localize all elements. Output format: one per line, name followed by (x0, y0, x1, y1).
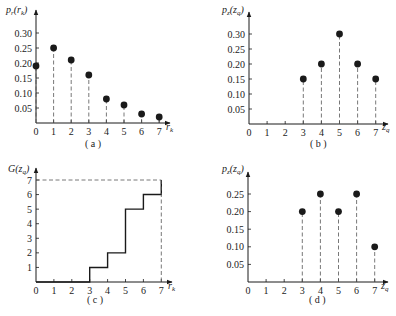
x-tick-label: 4 (105, 285, 110, 296)
data-point (353, 191, 360, 198)
data-point (85, 72, 92, 79)
chart-a-ylabel: pr(rk) (5, 4, 28, 17)
x-tick-label: 7 (373, 127, 378, 138)
data-point (138, 111, 145, 118)
step-line (36, 180, 161, 282)
x-tick-label: 4 (318, 285, 323, 296)
x-tick-label: 3 (301, 127, 306, 138)
data-point (68, 57, 75, 64)
y-tick-label: 0.15 (227, 224, 245, 235)
chart-b-caption: ( b ) (310, 138, 327, 150)
y-tick-label: 4 (27, 218, 32, 229)
data-point (299, 208, 306, 215)
x-tick-label: 4 (319, 127, 324, 138)
chart-c: G(zq) rk ( c ) 012345671234567 (8, 163, 176, 306)
x-tick-label: 2 (69, 285, 74, 296)
y-tick-label: 0.20 (227, 206, 245, 217)
x-tick-label: 1 (51, 126, 56, 137)
data-point (33, 63, 40, 70)
x-tick-label: 5 (336, 285, 341, 296)
y-tick-label: 0.05 (227, 259, 245, 270)
y-tick-label: 0.15 (228, 74, 246, 85)
data-point (354, 61, 361, 68)
data-point (318, 61, 325, 68)
x-tick-label: 0 (247, 127, 252, 138)
y-tick-label: 0.30 (15, 28, 33, 39)
y-tick-label: 0.25 (228, 44, 246, 55)
x-tick-label: 3 (87, 285, 92, 296)
x-tick-label: 1 (51, 285, 56, 296)
y-tick-label: 0.05 (15, 103, 33, 114)
x-tick-label: 2 (282, 285, 287, 296)
x-tick-label: 0 (34, 126, 39, 137)
y-tick-label: 3 (27, 233, 32, 244)
y-tick-label: 0.05 (228, 104, 246, 115)
x-tick-label: 5 (122, 126, 127, 137)
data-point (156, 114, 163, 121)
chart-b-ylabel: pz(zq) (221, 4, 244, 17)
x-tick-label: 0 (34, 285, 39, 296)
x-tick-label: 3 (86, 126, 91, 137)
x-tick-label: 5 (337, 127, 342, 138)
x-tick-label: 5 (123, 285, 128, 296)
data-point (121, 102, 128, 109)
x-tick-label: 6 (354, 285, 359, 296)
y-tick-label: 0.10 (228, 89, 246, 100)
y-tick-label: 7 (27, 175, 32, 186)
figure-canvas: pr(rk) rk ( a ) 012345670.050.100.150.20… (0, 0, 396, 316)
y-tick-label: 0.20 (15, 58, 33, 69)
data-point (371, 243, 378, 250)
y-tick-label: 0.20 (228, 59, 246, 70)
x-tick-label: 2 (283, 127, 288, 138)
chart-b-xlabel: zq (381, 121, 390, 134)
y-tick-label: 0.30 (228, 29, 246, 40)
chart-a: pr(rk) rk ( a ) 012345670.050.100.150.20… (5, 4, 174, 150)
x-tick-label: 7 (157, 126, 162, 137)
y-tick-label: 0.10 (227, 241, 245, 252)
data-point (300, 76, 307, 83)
y-tick-label: 2 (27, 247, 32, 258)
data-point (372, 76, 379, 83)
data-point (336, 31, 343, 38)
x-tick-label: 3 (300, 285, 305, 296)
chart-b: pz(zq) zq ( b ) 012345670.050.100.150.20… (221, 4, 390, 150)
data-point (335, 208, 342, 215)
chart-d-ylabel: pz(zq) (221, 163, 244, 176)
y-tick-label: 0.10 (15, 88, 33, 99)
x-tick-label: 7 (372, 285, 377, 296)
y-tick-label: 5 (27, 204, 32, 215)
x-tick-label: 6 (355, 127, 360, 138)
data-point (50, 45, 57, 52)
x-tick-label: 6 (141, 285, 146, 296)
y-tick-label: 1 (27, 262, 32, 273)
x-tick-label: 2 (69, 126, 74, 137)
y-tick-label: 6 (27, 189, 32, 200)
x-tick-label: 4 (104, 126, 109, 137)
x-tick-label: 0 (246, 285, 251, 296)
data-point (317, 191, 324, 198)
x-tick-label: 1 (264, 285, 269, 296)
x-tick-label: 1 (265, 127, 270, 138)
x-tick-label: 7 (159, 285, 164, 296)
chart-a-caption: ( a ) (85, 138, 101, 150)
data-point (103, 96, 110, 103)
y-tick-label: 0.25 (227, 189, 245, 200)
chart-d: pz(zq) zq ( d ) 012345670.050.100.150.20… (221, 163, 389, 306)
y-tick-label: 0.15 (15, 73, 33, 84)
x-tick-label: 6 (139, 126, 144, 137)
y-tick-label: 0.25 (15, 43, 33, 54)
